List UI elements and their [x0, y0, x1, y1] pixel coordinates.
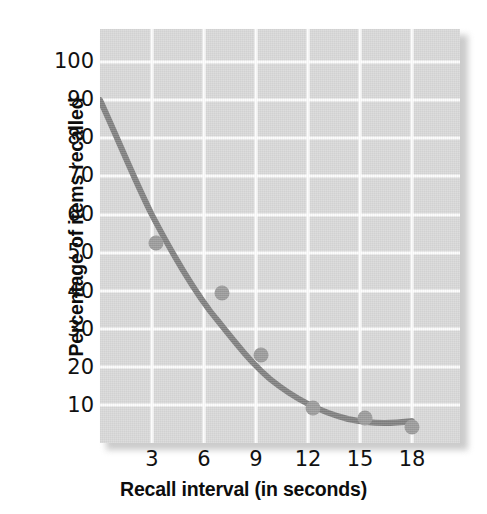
y-tick-label-70: 70 — [24, 165, 94, 186]
y-tick-label-80: 80 — [24, 127, 94, 148]
plot-svg — [100, 29, 460, 443]
plot-area — [100, 29, 460, 443]
horizontal-gridlines — [100, 62, 460, 405]
y-tick-label-40: 40 — [24, 281, 94, 302]
forgetting-curve-chart: Percentage of items recalled 100 90 80 7… — [0, 0, 487, 514]
data-point-6s — [215, 286, 230, 301]
data-point-9s — [254, 348, 269, 363]
x-tick-label-6: 6 — [184, 449, 224, 470]
y-tick-label-10: 10 — [24, 395, 94, 416]
y-tick-label-20: 20 — [24, 357, 94, 378]
data-point-3s — [149, 236, 164, 251]
vertical-gridlines — [152, 29, 412, 443]
x-tick-label-12: 12 — [288, 449, 328, 470]
y-tick-label-100: 100 — [24, 51, 94, 72]
x-tick-label-15: 15 — [340, 449, 380, 470]
data-point-18s — [405, 420, 420, 435]
x-tick-label-18: 18 — [392, 449, 432, 470]
y-tick-label-30: 30 — [24, 319, 94, 340]
data-point-15s — [358, 411, 373, 426]
x-tick-label-3: 3 — [132, 449, 172, 470]
data-point-12s — [306, 401, 321, 416]
x-tick-label-9: 9 — [236, 449, 276, 470]
y-tick-label-50: 50 — [24, 242, 94, 263]
x-axis-title: Recall interval (in seconds) — [0, 478, 487, 501]
y-tick-label-90: 90 — [24, 89, 94, 110]
y-tick-label-60: 60 — [24, 204, 94, 225]
